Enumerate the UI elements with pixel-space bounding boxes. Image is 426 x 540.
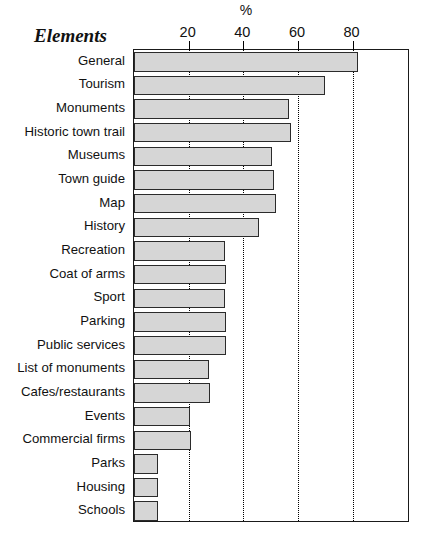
bar-row (134, 336, 408, 355)
bar-chart-figure: % Elements 20406080 GeneralTourismMonume… (0, 0, 426, 540)
x-tick-label-80: 80 (344, 24, 360, 40)
category-label: History (0, 219, 129, 233)
bar-row (134, 454, 408, 473)
category-label: Commercial firms (0, 432, 129, 446)
category-label: List of monuments (0, 361, 129, 375)
bar-row (134, 478, 408, 497)
bar-row (134, 99, 408, 118)
x-tick-label-40: 40 (234, 24, 250, 40)
category-label: Public services (0, 338, 129, 352)
bar-series (134, 50, 408, 521)
category-label: General (0, 54, 129, 68)
category-label: Cafes/restaurants (0, 385, 129, 399)
x-tick-label-60: 60 (289, 24, 305, 40)
bar-row (134, 76, 408, 95)
axis-unit-title-text: % (240, 2, 252, 18)
bar-row (134, 170, 408, 189)
bar (134, 478, 159, 497)
category-label: Town guide (0, 172, 129, 186)
bar (134, 454, 159, 473)
bar (134, 312, 227, 331)
plot-area (133, 49, 409, 522)
category-label: Monuments (0, 101, 129, 115)
bar (134, 336, 227, 355)
category-label: Sport (0, 290, 129, 304)
bar-row (134, 431, 408, 450)
category-label: Recreation (0, 243, 129, 257)
bar-row (134, 265, 408, 284)
bar (134, 407, 190, 426)
bar (134, 265, 227, 284)
category-label: Schools (0, 503, 129, 517)
bar (134, 194, 276, 213)
category-label: Coat of arms (0, 267, 129, 281)
bar (134, 501, 159, 520)
bar-row (134, 147, 408, 166)
category-label: Parks (0, 456, 129, 470)
bar-row (134, 407, 408, 426)
bar (134, 241, 226, 260)
bar (134, 360, 209, 379)
category-label: Parking (0, 314, 129, 328)
bar-row (134, 312, 408, 331)
bar (134, 52, 358, 71)
bar-row (134, 360, 408, 379)
category-labels: GeneralTourismMonumentsHistoric town tra… (0, 49, 129, 522)
bar (134, 383, 211, 402)
bar (134, 147, 272, 166)
bar-row (134, 241, 408, 260)
bar-row (134, 218, 408, 237)
bar (134, 170, 275, 189)
category-label: Tourism (0, 77, 129, 91)
category-label: Map (0, 196, 129, 210)
bar (134, 76, 325, 95)
category-label: Historic town trail (0, 125, 129, 139)
bar (134, 218, 260, 237)
bar (134, 289, 226, 308)
category-label: Museums (0, 148, 129, 162)
bar (134, 431, 191, 450)
x-tick-label-20: 20 (180, 24, 196, 40)
bar (134, 99, 290, 118)
category-label: Housing (0, 480, 129, 494)
bar-row (134, 289, 408, 308)
x-axis-tick-labels: 20406080 (0, 24, 426, 44)
bar (134, 123, 291, 142)
bar-row (134, 52, 408, 71)
bar-row (134, 123, 408, 142)
bar-row (134, 383, 408, 402)
bar-row (134, 501, 408, 520)
category-label: Events (0, 409, 129, 423)
axis-unit-title: % (0, 3, 426, 17)
bar-row (134, 194, 408, 213)
